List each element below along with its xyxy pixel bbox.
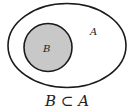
set-a-label: A [89,26,97,37]
venn-diagram: A B B ⊂ A [0,0,135,110]
caption: B ⊂ A [44,92,89,110]
set-b-label: B [42,43,50,54]
